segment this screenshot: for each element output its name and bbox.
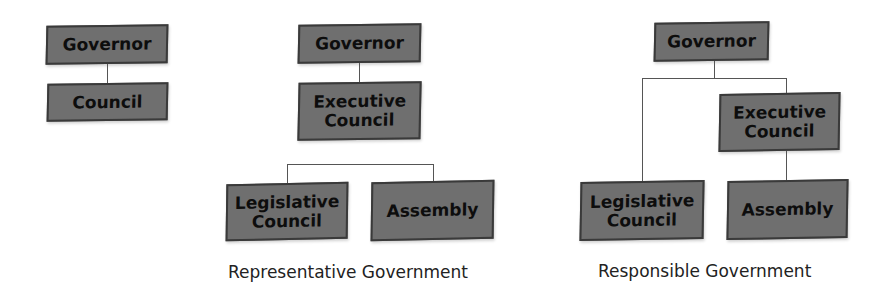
- executive-council-label-line2: Council: [744, 121, 814, 141]
- assembly-box: Assembly: [726, 179, 848, 240]
- connector-line: [287, 164, 434, 165]
- executive-council-box: Executive Council: [297, 81, 421, 141]
- governor-box: Governor: [298, 23, 422, 64]
- governor-label: Governor: [62, 34, 151, 54]
- assembly-label: Assembly: [741, 199, 833, 220]
- executive-council-box: Executive Council: [718, 92, 840, 152]
- assembly-box: Assembly: [371, 180, 495, 242]
- connector-line: [714, 61, 715, 78]
- legislative-council-label-line2: Council: [607, 210, 677, 230]
- connector-line: [359, 63, 360, 82]
- governor-label: Governor: [315, 33, 404, 53]
- legislative-council-box: Legislative Council: [226, 182, 349, 242]
- executive-council-label-line2: Council: [324, 111, 395, 131]
- connector-line: [786, 78, 787, 93]
- governor-label: Governor: [667, 31, 756, 51]
- council-box: Council: [47, 82, 169, 122]
- connector-line: [107, 64, 108, 83]
- connector-line: [642, 78, 787, 79]
- legislative-council-label-line2: Council: [252, 211, 322, 231]
- council-label: Council: [72, 92, 143, 112]
- connector-line: [642, 78, 643, 181]
- governor-box: Governor: [654, 21, 770, 62]
- connector-line: [433, 164, 434, 182]
- legislative-council-label-line1: Legislative: [235, 191, 340, 212]
- assembly-label: Assembly: [386, 200, 478, 221]
- governor-box: Governor: [46, 24, 169, 65]
- legislative-council-label-line1: Legislative: [590, 191, 695, 212]
- legislative-council-box: Legislative Council: [579, 180, 704, 241]
- connector-line: [287, 164, 288, 184]
- connector-line: [786, 151, 787, 180]
- caption-representative-government: Representative Government: [228, 262, 468, 282]
- caption-responsible-government: Responsible Government: [598, 261, 811, 281]
